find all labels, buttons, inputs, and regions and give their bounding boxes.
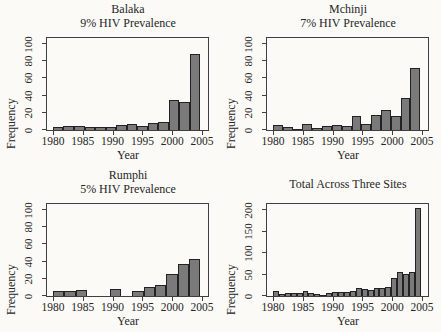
chart-subtitle: 9% HIV Prevalence bbox=[46, 17, 210, 31]
y-tick-label: 40 bbox=[23, 90, 34, 101]
y-tick-mark bbox=[262, 274, 267, 275]
x-tick-label: 2005 bbox=[191, 301, 214, 313]
y-tick-label: 80 bbox=[23, 222, 34, 233]
x-tick-label: 2000 bbox=[161, 301, 184, 313]
histogram-bar bbox=[110, 289, 121, 296]
histogram-bar bbox=[273, 125, 283, 130]
histogram-bar bbox=[410, 68, 420, 130]
y-tick-label: 100 bbox=[23, 202, 34, 219]
plot-area: 050100150200198019851990199520002005 bbox=[266, 203, 429, 297]
x-axis-label: Year bbox=[266, 314, 430, 329]
histogram-bar bbox=[63, 126, 74, 130]
x-tick-label: 1995 bbox=[131, 135, 154, 147]
x-tick-label: 1985 bbox=[71, 135, 94, 147]
x-tick-label: 1995 bbox=[351, 301, 374, 313]
y-tick-label: 150 bbox=[243, 224, 254, 241]
y-tick-label: 0 bbox=[243, 293, 254, 299]
y-tick-mark bbox=[262, 60, 267, 61]
histogram-bar bbox=[415, 208, 421, 296]
x-tick-label: 1980 bbox=[41, 301, 64, 313]
histogram-bar bbox=[190, 54, 201, 130]
y-tick-label: 20 bbox=[23, 107, 34, 118]
histogram-bar bbox=[166, 274, 177, 296]
x-tick-label: 1980 bbox=[41, 135, 64, 147]
bars-layer bbox=[47, 204, 208, 296]
histogram-bar bbox=[76, 290, 87, 296]
y-tick-mark bbox=[42, 261, 47, 262]
x-tick-label: 2005 bbox=[411, 301, 434, 313]
bars-layer bbox=[267, 38, 428, 130]
y-tick-label: 200 bbox=[243, 202, 254, 219]
chart-title: Mchinji bbox=[266, 3, 430, 17]
y-tick-label: 80 bbox=[243, 56, 254, 67]
histogram-panel-total: Total Across Three Sites Frequency 05010… bbox=[220, 166, 441, 332]
y-tick-mark bbox=[42, 129, 47, 130]
chart-subtitle: 7% HIV Prevalence bbox=[266, 17, 430, 31]
y-axis-label: Frequency bbox=[5, 265, 17, 316]
histogram-bar bbox=[401, 98, 411, 130]
y-tick-label: 20 bbox=[23, 273, 34, 284]
y-tick-label: 40 bbox=[243, 90, 254, 101]
y-tick-mark bbox=[262, 252, 267, 253]
y-tick-label: 60 bbox=[23, 73, 34, 84]
y-tick-label: 100 bbox=[243, 245, 254, 262]
histogram-bar bbox=[127, 124, 138, 130]
y-tick-mark bbox=[42, 243, 47, 244]
y-tick-mark bbox=[262, 95, 267, 96]
y-tick-mark bbox=[262, 112, 267, 113]
x-tick-label: 1985 bbox=[291, 301, 314, 313]
chart-subtitle: 5% HIV Prevalence bbox=[46, 183, 210, 197]
histogram-bar bbox=[312, 128, 322, 130]
chart-title-block: Total Across Three Sites bbox=[266, 178, 430, 192]
y-axis-label: Frequency bbox=[225, 99, 237, 150]
y-tick-mark bbox=[262, 209, 267, 210]
bars-layer bbox=[267, 204, 428, 296]
histogram-bar bbox=[53, 291, 64, 296]
x-tick-label: 1995 bbox=[351, 135, 374, 147]
y-axis-label: Frequency bbox=[225, 265, 237, 316]
x-tick-label: 2005 bbox=[411, 135, 434, 147]
histogram-bar bbox=[342, 126, 352, 130]
x-tick-label: 1985 bbox=[291, 135, 314, 147]
plot-area: 020406080100198019851990199520002005 bbox=[46, 37, 209, 131]
y-tick-mark bbox=[262, 43, 267, 44]
histogram-bar bbox=[64, 291, 75, 296]
histogram-bar bbox=[293, 129, 303, 130]
y-tick-label: 20 bbox=[243, 107, 254, 118]
chart-title-block: Mchinji 7% HIV Prevalence bbox=[266, 3, 430, 30]
y-tick-label: 0 bbox=[23, 293, 34, 299]
chart-title: Rumphi bbox=[46, 169, 210, 183]
histogram-bar bbox=[352, 116, 362, 130]
y-tick-label: 0 bbox=[23, 127, 34, 133]
y-tick-mark bbox=[262, 295, 267, 296]
histogram-bar bbox=[302, 124, 312, 130]
histogram-bar bbox=[95, 127, 106, 130]
x-tick-label: 1990 bbox=[321, 135, 344, 147]
x-tick-label: 2000 bbox=[381, 135, 404, 147]
y-tick-mark bbox=[42, 209, 47, 210]
bars-layer bbox=[47, 38, 208, 130]
x-axis-label: Year bbox=[266, 148, 430, 163]
y-tick-label: 50 bbox=[243, 269, 254, 280]
histogram-bar bbox=[283, 127, 293, 130]
histogram-bar bbox=[391, 116, 401, 130]
x-tick-label: 1990 bbox=[101, 135, 124, 147]
x-tick-label: 2005 bbox=[191, 135, 214, 147]
x-tick-label: 2000 bbox=[381, 301, 404, 313]
chart-title-block: Balaka 9% HIV Prevalence bbox=[46, 3, 210, 30]
chart-title: Balaka bbox=[46, 3, 210, 17]
histogram-bar bbox=[322, 126, 332, 130]
y-tick-label: 0 bbox=[243, 127, 254, 133]
y-tick-mark bbox=[262, 231, 267, 232]
histogram-bar bbox=[144, 287, 155, 296]
y-tick-mark bbox=[262, 77, 267, 78]
y-tick-label: 40 bbox=[23, 256, 34, 267]
histogram-bar bbox=[53, 127, 64, 130]
histogram-bar bbox=[178, 264, 189, 296]
y-tick-mark bbox=[262, 129, 267, 130]
y-tick-mark bbox=[42, 226, 47, 227]
histogram-panel-rumphi: Rumphi 5% HIV Prevalence Frequency 02040… bbox=[0, 166, 220, 332]
x-tick-label: 1990 bbox=[321, 301, 344, 313]
y-tick-mark bbox=[42, 112, 47, 113]
histogram-bar bbox=[155, 285, 166, 296]
